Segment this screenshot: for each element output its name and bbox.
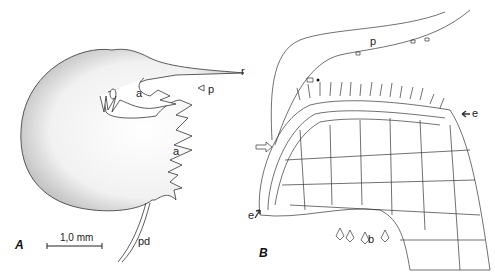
label-pd: pd [138,236,150,247]
label-p-b: p [370,36,376,47]
trap-body [21,49,244,211]
arrow-p-icon [198,85,204,91]
arrow-e-right-icon [462,111,470,117]
flap-p-inner [275,10,470,145]
arrow-e-left-icon [255,210,260,218]
scale-bar [47,243,102,249]
tissue-outline [259,101,490,270]
panel-label-a: A [15,238,24,252]
panel-b-section [255,10,490,270]
label-e-left: e [248,210,254,221]
label-a-lower: a [173,146,179,157]
glands-b [336,228,389,244]
panel-a-trap [21,49,244,262]
label-b: b [368,234,374,245]
scale-bar-text: 1,0 mm [60,232,93,243]
asterisk-dot [317,79,320,82]
label-p-a: p [208,84,214,95]
flap-p [271,12,445,140]
stalk-pd [118,203,150,262]
panel-label-b: B [259,246,268,260]
label-r: r [241,66,245,77]
open-arrow-icon [256,142,272,152]
label-e-right: e [472,108,478,119]
label-a-upper: a [136,88,142,99]
